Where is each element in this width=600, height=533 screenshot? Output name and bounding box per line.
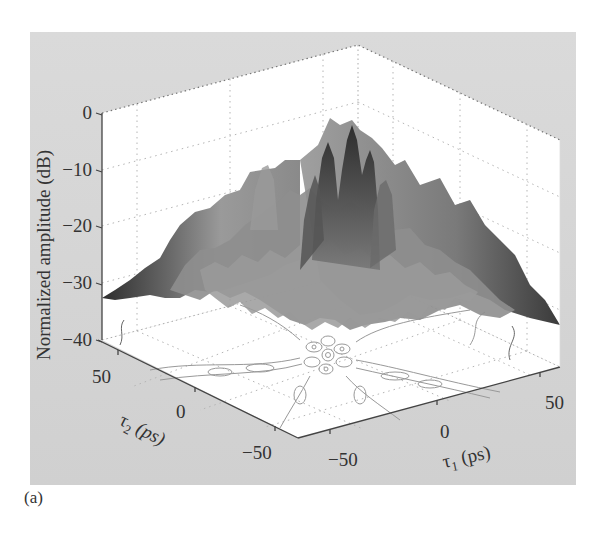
y-tick-50: 50 xyxy=(92,366,111,387)
x-axis-label: τ1 (ps) xyxy=(440,441,493,476)
z-axis-label: Normalized amplitude (dB) xyxy=(33,150,55,360)
z-tick-3: −30 xyxy=(62,272,92,293)
x-tick-neg50: −50 xyxy=(328,449,358,470)
surface-plot: 0 −10 −20 −30 −40 Normalized amplitude (… xyxy=(0,0,600,533)
z-tick-4: −40 xyxy=(62,329,92,350)
x-tick-50: 50 xyxy=(545,392,564,413)
x-tick-0: 0 xyxy=(440,421,450,442)
y-tick-neg50: −50 xyxy=(242,442,272,463)
z-tick-2: −20 xyxy=(62,215,92,236)
y-axis-label: τ2 (ps) xyxy=(114,409,169,453)
z-tick-1: −10 xyxy=(62,159,92,180)
z-axis-ticks: 0 −10 −20 −30 −40 xyxy=(62,102,92,350)
figure-caption: (a) xyxy=(24,488,43,508)
y-tick-0: 0 xyxy=(176,401,186,422)
z-tick-0: 0 xyxy=(83,102,93,123)
